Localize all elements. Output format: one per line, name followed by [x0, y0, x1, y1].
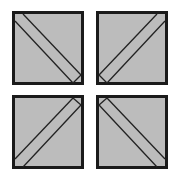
diagonal-band-square-icon [12, 95, 84, 169]
tile-top-right [96, 11, 168, 85]
diagonal-band-square-icon [96, 11, 168, 85]
diagonal-band-square-icon [12, 11, 84, 85]
tile-bottom-left [12, 95, 84, 169]
diagonal-band-square-icon [96, 95, 168, 169]
tile-top-left [12, 11, 84, 85]
tile-bottom-right [96, 95, 168, 169]
